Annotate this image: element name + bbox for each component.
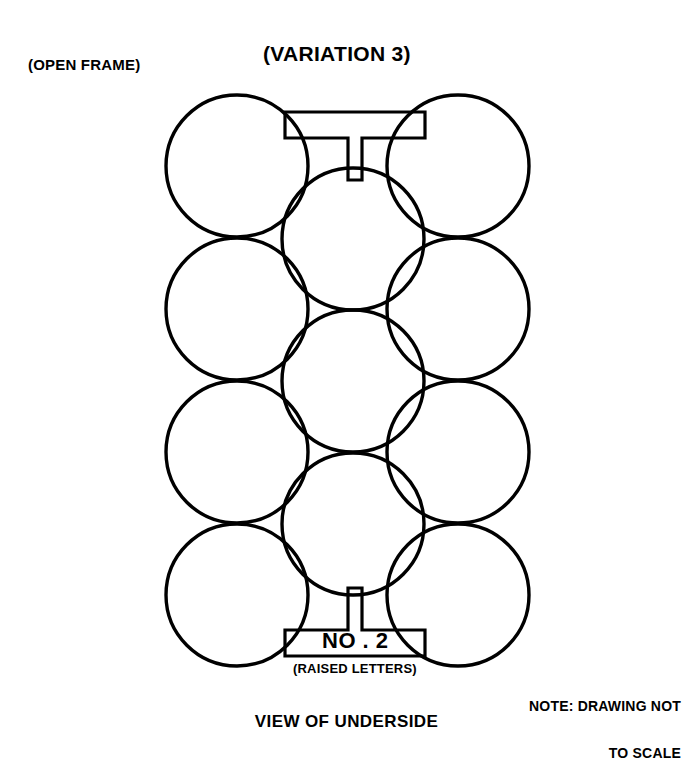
roller-circle [282,310,424,452]
raised-letters-note: (RAISED LETTERS) [293,661,417,676]
roller-circle [282,168,424,310]
variation-title: (VARIATION 3) [263,42,411,66]
part-number-label: NO . 2 [322,628,389,654]
view-caption: VIEW OF UNDERSIDE [0,712,693,732]
scale-note-line-2: TO SCALE [529,746,681,762]
open-frame-label: (OPEN FRAME) [28,56,140,73]
roller-circle [282,453,424,595]
